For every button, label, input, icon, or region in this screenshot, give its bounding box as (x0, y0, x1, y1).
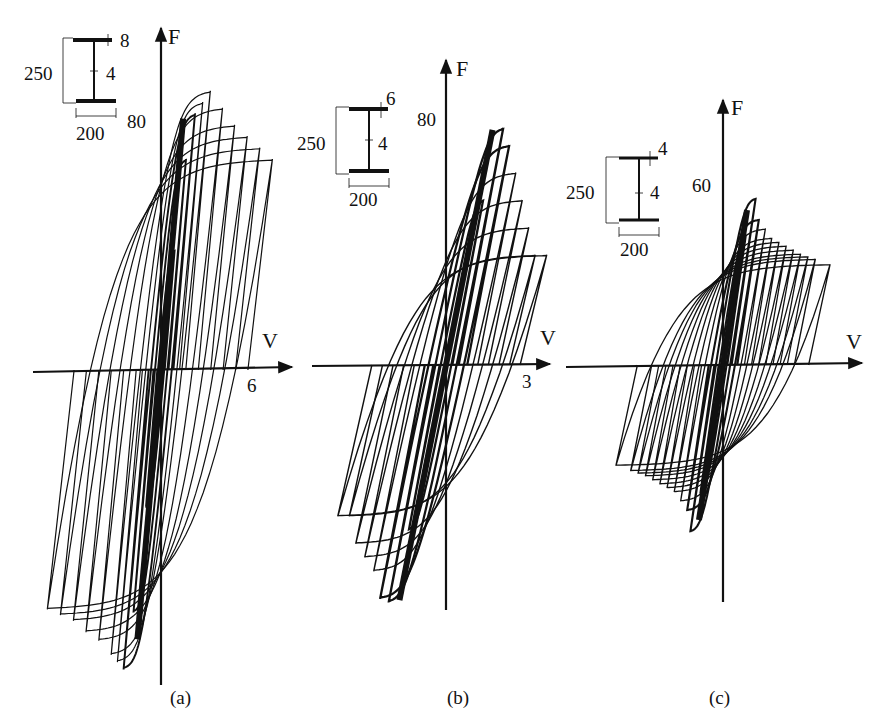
caption-a: (a) (170, 688, 191, 707)
panel-a (33, 28, 292, 685)
web-thickness-label-a: 4 (106, 64, 116, 83)
caption-c: (c) (709, 688, 730, 707)
x-tick-label-a: 6 (247, 376, 257, 395)
flange-thickness-label-c: 4 (658, 139, 668, 158)
section-height-label-b: 250 (297, 134, 326, 153)
v-axis-label-c: V (846, 331, 862, 353)
y-tick-label-b: 80 (417, 110, 436, 129)
f-axis-label-a: F (168, 26, 180, 48)
y-tick-label-c: 60 (692, 176, 711, 195)
section-width-label-c: 200 (620, 240, 649, 259)
x-tick-label-b: 3 (522, 372, 532, 391)
panel-c (566, 100, 862, 602)
v-axis-label-b: V (540, 327, 556, 349)
section-height-label-c: 250 (566, 183, 595, 202)
v-axis-label-a: V (262, 330, 278, 352)
section-height-label-a: 250 (24, 64, 53, 83)
web-thickness-label-c: 4 (650, 183, 660, 202)
web-thickness-label-b: 4 (378, 134, 388, 153)
y-tick-label-a: 80 (127, 112, 146, 131)
flange-thickness-label-a: 8 (120, 31, 130, 50)
panel-b (312, 60, 550, 610)
hysteresis-loops-a (47, 91, 272, 670)
section-width-label-a: 200 (76, 124, 105, 143)
v-axis-b (312, 364, 550, 366)
f-axis-label-b: F (456, 58, 468, 80)
section-width-label-b: 200 (349, 190, 378, 209)
flange-thickness-label-b: 6 (386, 89, 396, 108)
f-axis-label-c: F (731, 97, 743, 119)
hysteresis-figure (0, 0, 883, 718)
caption-b: (b) (447, 688, 469, 707)
